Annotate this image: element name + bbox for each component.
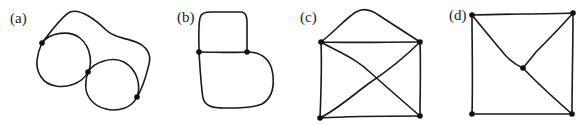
- panel-c-left-edge: [320, 42, 321, 118]
- panel-d-right-edge: [572, 13, 573, 114]
- panel-c-label: (c): [300, 9, 317, 26]
- graph-figure: (a) (b) (c): [0, 0, 582, 125]
- panel-b-vertex-1: [196, 49, 202, 55]
- panel-b: (b): [177, 9, 273, 108]
- panel-c: (c): [300, 9, 423, 121]
- panel-c-vertex-top-left: [318, 39, 324, 45]
- panel-d-vertex-top-left: [469, 12, 475, 18]
- panel-d-spoke-bottom-right: [523, 68, 572, 114]
- panel-b-vertex-2: [244, 49, 250, 55]
- panel-d-vertex-bottom-right: [569, 111, 575, 117]
- panel-d-spoke-top-left: [472, 15, 523, 68]
- panel-a-right-loop: [86, 60, 139, 110]
- panel-c-bottom-edge: [320, 116, 420, 118]
- panel-d-vertex-top-right: [570, 10, 576, 16]
- panel-a-left-loop: [37, 33, 90, 86]
- panel-d-top-edge: [472, 13, 573, 15]
- panel-a-vertex-1: [39, 40, 45, 46]
- panel-c-vertex-top-right: [417, 39, 423, 45]
- panel-b-bottom-loop: [199, 52, 273, 108]
- panel-b-label: (b): [177, 9, 195, 26]
- panel-a-label: (a): [10, 10, 27, 27]
- panel-b-top-loop: [199, 12, 247, 52]
- panel-d-spoke-top-right: [523, 13, 573, 68]
- panel-c-diagonal-2: [320, 42, 420, 118]
- panel-a: (a): [10, 10, 150, 110]
- panel-d-label: (d): [449, 7, 467, 24]
- panel-d: (d): [449, 7, 576, 117]
- panel-a-outer-edge: [42, 11, 150, 97]
- panel-d-vertex-center: [520, 65, 526, 71]
- panel-a-vertex-2: [85, 69, 91, 75]
- panel-d-vertex-bottom-left: [469, 111, 475, 117]
- panel-c-arch-edge: [321, 9, 420, 42]
- panel-c-diagonal-1: [321, 42, 420, 116]
- panel-c-vertex-bottom-right: [417, 113, 423, 119]
- panel-a-vertex-3: [134, 94, 140, 100]
- panel-c-vertex-bottom-left: [317, 115, 323, 121]
